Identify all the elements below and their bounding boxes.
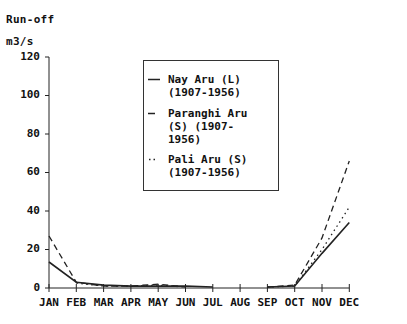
x-tick-label-feb: FEB bbox=[61, 296, 91, 309]
x-tick-label-apr: APR bbox=[116, 296, 146, 309]
x-tick-label-nov: NOV bbox=[307, 296, 337, 309]
x-tick-label-sep: SEP bbox=[252, 296, 282, 309]
series-line-solid bbox=[49, 262, 213, 287]
x-tick-label-jul: JUL bbox=[198, 296, 228, 309]
legend-label-line1: Nay Aru (L) bbox=[168, 73, 241, 86]
series-line-dashed bbox=[267, 161, 349, 287]
series-line-dotted bbox=[267, 207, 349, 287]
x-tick-label-dec: DEC bbox=[334, 296, 364, 309]
dotted-line-swatch-icon bbox=[148, 158, 160, 161]
legend-label-line2: (1907-1956) bbox=[168, 86, 241, 99]
legend-label-line2: (1907-1956) bbox=[168, 166, 241, 179]
legend: Nay Aru (L) (1907-1956) Paranghi Aru (S)… bbox=[143, 60, 279, 191]
legend-label-line2: (S) (1907- bbox=[168, 120, 234, 133]
x-tick-label-jan: JAN bbox=[34, 296, 64, 309]
series-line-dashed bbox=[49, 236, 186, 287]
solid-line-swatch-icon bbox=[148, 78, 160, 81]
dashed-line-swatch-icon bbox=[148, 112, 160, 115]
legend-label-line1: Paranghi Aru bbox=[168, 107, 247, 120]
series-line-solid bbox=[267, 223, 349, 287]
x-tick-label-aug: AUG bbox=[225, 296, 255, 309]
x-tick-label-oct: OCT bbox=[280, 296, 310, 309]
legend-label-line3: 1956) bbox=[168, 133, 201, 146]
x-tick-label-may: MAY bbox=[143, 296, 173, 309]
legend-label-line1: Pali Aru (S) bbox=[168, 153, 247, 166]
x-tick-label-mar: MAR bbox=[89, 296, 119, 309]
x-tick-label-jun: JUN bbox=[171, 296, 201, 309]
